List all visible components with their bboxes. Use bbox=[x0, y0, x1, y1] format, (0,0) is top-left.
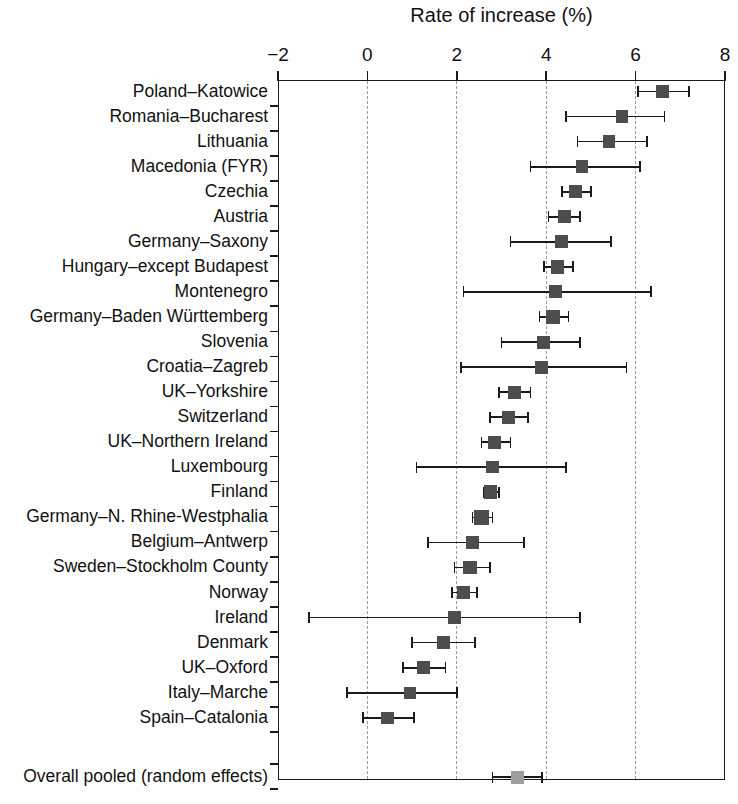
ci-cap-lower bbox=[548, 211, 550, 222]
ci-cap-lower bbox=[454, 562, 456, 573]
point-estimate-marker bbox=[576, 160, 588, 172]
row-tick-mark bbox=[270, 356, 278, 358]
ci-cap-lower bbox=[402, 662, 404, 673]
ci-cap-lower bbox=[489, 412, 491, 423]
row-label: Montenegro bbox=[0, 281, 268, 301]
point-estimate-marker bbox=[502, 411, 515, 424]
ci-cap-lower bbox=[565, 111, 567, 122]
ci-cap-lower bbox=[577, 136, 579, 147]
x-tick-label-4: 4 bbox=[541, 44, 552, 66]
ci-cap-lower bbox=[472, 512, 474, 523]
row-tick-mark bbox=[270, 205, 278, 207]
row-tick-mark bbox=[270, 531, 278, 533]
ci-cap-upper bbox=[456, 687, 458, 698]
ci-cap-upper bbox=[474, 637, 476, 648]
point-estimate-marker bbox=[508, 386, 521, 399]
row-tick-mark bbox=[270, 631, 278, 633]
row-tick-mark bbox=[270, 706, 278, 708]
row-label: Poland–Katowice bbox=[0, 81, 268, 101]
row-label: Austria bbox=[0, 206, 268, 226]
ci-cap-lower bbox=[416, 462, 418, 473]
row-tick-mark bbox=[270, 180, 278, 182]
ci-cap-lower bbox=[637, 86, 639, 97]
ci-cap-lower bbox=[451, 587, 453, 598]
row-label: Hungary–except Budapest bbox=[0, 256, 268, 276]
row-label: Slovenia bbox=[0, 331, 268, 351]
row-label: Luxembourg bbox=[0, 456, 268, 476]
point-estimate-marker bbox=[486, 461, 498, 473]
ci-cap-upper bbox=[639, 161, 641, 172]
row-label: Sweden–Stockholm County bbox=[0, 556, 268, 576]
row-label: Ireland bbox=[0, 607, 268, 627]
forest-plot-chart: Rate of increase (%) −202468 Poland–Kato… bbox=[0, 0, 738, 804]
point-estimate-marker bbox=[656, 85, 669, 98]
ci-cap-upper bbox=[664, 111, 666, 122]
ci-cap-upper bbox=[476, 587, 478, 598]
row-tick-mark bbox=[270, 731, 278, 733]
row-tick-mark bbox=[270, 656, 278, 658]
ci-cap-upper bbox=[523, 537, 525, 548]
ci-cap-lower bbox=[543, 261, 545, 272]
ci-cap-upper bbox=[498, 487, 500, 498]
row-label: Belgium–Antwerp bbox=[0, 531, 268, 551]
point-estimate-marker bbox=[437, 636, 450, 649]
ci-cap-lower bbox=[561, 186, 563, 197]
point-estimate-marker bbox=[488, 436, 501, 449]
ci-cap-upper bbox=[413, 712, 415, 723]
ci-cap-upper bbox=[541, 772, 543, 783]
row-tick-mark bbox=[270, 155, 278, 157]
row-tick-mark bbox=[270, 681, 278, 683]
row-tick-mark bbox=[270, 381, 278, 383]
point-estimate-marker bbox=[555, 235, 568, 248]
point-estimate-marker bbox=[551, 260, 565, 274]
ci-cap-lower bbox=[308, 612, 310, 623]
row-label: Croatia–Zagreb bbox=[0, 356, 268, 376]
point-estimate-marker bbox=[603, 135, 615, 147]
row-tick-mark bbox=[270, 255, 278, 257]
point-estimate-marker bbox=[404, 687, 416, 699]
row-label: UK–Northern Ireland bbox=[0, 431, 268, 451]
ci-cap-lower bbox=[362, 712, 364, 723]
row-label: UK–Oxford bbox=[0, 657, 268, 677]
point-estimate-marker bbox=[537, 336, 550, 349]
row-label: UK–Yorkshire bbox=[0, 381, 268, 401]
point-estimate-marker bbox=[546, 310, 560, 324]
x-tick-label-0: 0 bbox=[362, 44, 373, 66]
point-estimate-marker bbox=[484, 485, 498, 499]
ci-cap-lower bbox=[481, 437, 483, 448]
point-estimate-marker bbox=[463, 561, 477, 575]
ci-cap-upper bbox=[590, 186, 592, 197]
ci-cap-upper bbox=[650, 286, 652, 297]
row-tick-mark bbox=[270, 280, 278, 282]
x-tick-label-8: 8 bbox=[720, 44, 731, 66]
ci-cap-upper bbox=[646, 136, 648, 147]
row-label: Spain–Catalonia bbox=[0, 707, 268, 727]
ci-cap-lower bbox=[346, 687, 348, 698]
row-label: Switzerland bbox=[0, 406, 268, 426]
row-tick-mark bbox=[270, 456, 278, 458]
x-tick-label-6: 6 bbox=[630, 44, 641, 66]
point-estimate-marker bbox=[474, 510, 488, 524]
ci-cap-upper bbox=[530, 387, 532, 398]
point-estimate-marker bbox=[558, 210, 571, 223]
point-estimate-marker bbox=[417, 661, 430, 674]
ci-cap-lower bbox=[510, 236, 512, 247]
ci-cap-upper bbox=[610, 236, 612, 247]
ci-cap-upper bbox=[489, 562, 491, 573]
row-label: Germany–N. Rhine-Westphalia bbox=[0, 506, 268, 526]
ci-cap-upper bbox=[572, 261, 574, 272]
ci-cap-lower bbox=[427, 537, 429, 548]
plot-area-frame bbox=[278, 80, 725, 780]
row-tick-mark bbox=[270, 230, 278, 232]
ci-cap-upper bbox=[527, 412, 529, 423]
ci-cap-upper bbox=[510, 437, 512, 448]
point-estimate-marker bbox=[466, 536, 480, 550]
row-label: Lithuania bbox=[0, 131, 268, 151]
ci-cap-lower bbox=[492, 772, 494, 783]
ci-cap-lower bbox=[463, 286, 465, 297]
x-tick-label-2: 2 bbox=[452, 44, 463, 66]
row-tick-mark bbox=[270, 331, 278, 333]
confidence-interval-line bbox=[347, 692, 457, 694]
ci-cap-lower bbox=[539, 311, 541, 322]
row-tick-mark bbox=[270, 506, 278, 508]
